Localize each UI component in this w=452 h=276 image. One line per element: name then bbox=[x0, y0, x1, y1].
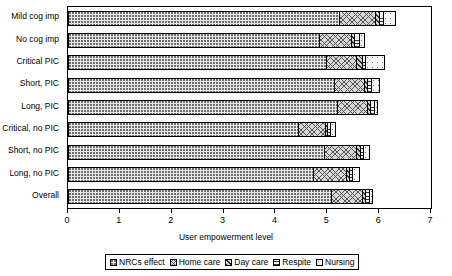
bar-row bbox=[68, 11, 431, 26]
bar-row bbox=[68, 167, 431, 182]
chart-container: Mild cog impNo cog impCritical PICShort,… bbox=[0, 0, 452, 276]
y-axis-tick-label: Short, no PIC bbox=[8, 146, 59, 155]
bar-segment bbox=[68, 11, 340, 26]
bar-segment bbox=[324, 145, 358, 160]
stacked-bar bbox=[68, 33, 364, 48]
x-axis-tick-label: 6 bbox=[376, 215, 381, 225]
x-axis-tick bbox=[119, 209, 120, 213]
legend-swatch-cross-hatch bbox=[170, 259, 177, 266]
bar-segment bbox=[319, 33, 353, 48]
bar-row bbox=[68, 145, 431, 160]
x-axis-tick-label: 3 bbox=[220, 215, 225, 225]
y-axis-tick-label: Short, PIC bbox=[20, 79, 59, 88]
bar-segment bbox=[352, 167, 359, 182]
x-axis-tick-label: 2 bbox=[168, 215, 173, 225]
x-axis-tick bbox=[430, 209, 431, 213]
bar-segment bbox=[326, 55, 357, 70]
bar-segment bbox=[68, 189, 332, 204]
bar-segment bbox=[334, 78, 365, 93]
bar-row bbox=[68, 122, 431, 137]
legend-item: Home care bbox=[170, 257, 221, 267]
x-axis-tick bbox=[223, 209, 224, 213]
legend-label: Nursing bbox=[325, 257, 354, 267]
y-axis-labels: Mild cog impNo cog impCritical PICShort,… bbox=[0, 6, 63, 209]
bar-row bbox=[68, 33, 431, 48]
x-axis: 01234567 bbox=[67, 209, 432, 231]
bar-segment bbox=[313, 167, 347, 182]
y-axis-tick-label: Critical, no PIC bbox=[2, 124, 59, 133]
bar-segment bbox=[359, 33, 365, 48]
bar-segment bbox=[68, 145, 325, 160]
y-axis-tick-label: No cog imp bbox=[16, 35, 59, 44]
x-axis-tick-label: 4 bbox=[272, 215, 277, 225]
y-axis-tick-label: Critical PIC bbox=[16, 57, 59, 66]
bar-segment bbox=[383, 11, 396, 26]
legend-swatch-horizontal-lines bbox=[273, 259, 280, 266]
x-axis-tick-label: 1 bbox=[116, 215, 121, 225]
bar-segment bbox=[363, 145, 370, 160]
bar-segment bbox=[339, 11, 375, 26]
x-axis-tick bbox=[67, 209, 68, 213]
bar-segment bbox=[365, 55, 386, 70]
bar-segment bbox=[68, 167, 314, 182]
x-axis-tick-label: 5 bbox=[324, 215, 329, 225]
legend-label: Home care bbox=[179, 257, 221, 267]
legend-item: Nursing bbox=[316, 257, 354, 267]
x-axis-title: User empowerment level bbox=[0, 232, 452, 242]
bar-row bbox=[68, 100, 431, 115]
y-axis-tick-label: Mild cog imp bbox=[11, 12, 59, 21]
stacked-bar bbox=[68, 100, 377, 115]
legend-swatch-diagonal-hatch bbox=[225, 259, 232, 266]
bar-segment bbox=[331, 189, 362, 204]
stacked-bar bbox=[68, 11, 395, 26]
plot-area bbox=[67, 6, 432, 209]
stacked-bar bbox=[68, 55, 384, 70]
bar-segment bbox=[68, 78, 335, 93]
bar-row bbox=[68, 78, 431, 93]
y-axis-tick-label: Long, no PIC bbox=[9, 169, 59, 178]
bar-segment bbox=[371, 78, 380, 93]
bar-segment bbox=[68, 55, 327, 70]
x-axis-tick bbox=[274, 209, 275, 213]
bar-row bbox=[68, 55, 431, 70]
y-axis-tick-label: Long, PIC bbox=[21, 102, 59, 111]
legend-swatch-dotted-fine bbox=[110, 259, 117, 266]
legend-item: Respite bbox=[273, 257, 311, 267]
legend-label: Day care bbox=[234, 257, 268, 267]
legend-label: Respite bbox=[282, 257, 311, 267]
y-axis-tick-label: Overall bbox=[32, 191, 59, 200]
bar-segment bbox=[68, 122, 299, 137]
stacked-bar bbox=[68, 167, 359, 182]
bar-segment bbox=[374, 100, 378, 115]
x-axis-tick-label: 7 bbox=[427, 215, 432, 225]
chart-legend: NRCs effectHome careDay careRespiteNursi… bbox=[105, 254, 359, 270]
x-axis-tick bbox=[326, 209, 327, 213]
legend-swatch-dotted-sparse bbox=[316, 259, 323, 266]
legend-item: NRCs effect bbox=[110, 257, 165, 267]
stacked-bar bbox=[68, 78, 379, 93]
bar-segment bbox=[337, 100, 368, 115]
x-axis-tick-label: 0 bbox=[64, 215, 69, 225]
legend-item: Day care bbox=[225, 257, 268, 267]
x-axis-tick bbox=[171, 209, 172, 213]
bar-segment bbox=[369, 189, 373, 204]
bar-segment bbox=[68, 100, 338, 115]
stacked-bar bbox=[68, 122, 335, 137]
bar-segment bbox=[68, 33, 320, 48]
legend-label: NRCs effect bbox=[119, 257, 165, 267]
bar-segment bbox=[330, 122, 336, 137]
bar-segment bbox=[298, 122, 327, 137]
stacked-bar bbox=[68, 145, 369, 160]
bar-row bbox=[68, 189, 431, 204]
x-axis-tick bbox=[378, 209, 379, 213]
stacked-bar bbox=[68, 189, 372, 204]
